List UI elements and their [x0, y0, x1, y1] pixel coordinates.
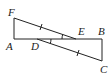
- label-a: A: [5, 40, 13, 52]
- angle-mark-e: [62, 35, 63, 40]
- label-e: E: [77, 25, 85, 37]
- label-b: B: [98, 25, 105, 37]
- label-c: C: [100, 63, 108, 75]
- segment-fe: [14, 18, 76, 39]
- label-f: F: [7, 6, 15, 18]
- angle-mark-d: [50, 39, 51, 44]
- geometry-diagram: F A D E B C: [0, 0, 110, 77]
- segment-dc: [37, 39, 102, 61]
- label-d: D: [30, 40, 39, 52]
